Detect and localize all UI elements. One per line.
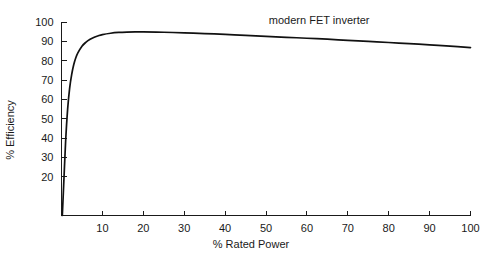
y-axis-title: % Efficiency — [4, 100, 16, 160]
y-tick-label: 50 — [41, 113, 53, 125]
x-tick-label: 100 — [461, 222, 479, 234]
x-tick-label: 80 — [383, 222, 395, 234]
series-line-modern-fet-inverter — [62, 32, 470, 216]
chart-series-lines — [62, 32, 470, 216]
y-tick-label: 90 — [41, 35, 53, 47]
y-tick-label: 40 — [41, 132, 53, 144]
x-axis-tick-labels: 102030405060708090100 — [96, 222, 479, 234]
x-tick-label: 20 — [137, 222, 149, 234]
x-tick-label: 50 — [260, 222, 272, 234]
y-tick-label: 20 — [41, 171, 53, 183]
x-tick-label: 70 — [342, 222, 354, 234]
x-tick-label: 30 — [178, 222, 190, 234]
chart-axes — [62, 22, 471, 216]
x-tick-label: 40 — [219, 222, 231, 234]
x-tick-label: 10 — [96, 222, 108, 234]
chart-tick-marks — [62, 22, 471, 216]
chart-annotations: modern FET inverter — [269, 14, 370, 26]
x-axis-title: % Rated Power — [213, 238, 290, 250]
chart-canvas: 102030405060708090100 203040506070809010… — [0, 0, 503, 257]
y-tick-label: 80 — [41, 55, 53, 67]
efficiency-chart: 102030405060708090100 203040506070809010… — [0, 0, 503, 257]
y-tick-label: 70 — [41, 74, 53, 86]
y-tick-label: 100 — [35, 16, 53, 28]
x-tick-label: 90 — [423, 222, 435, 234]
y-tick-label: 60 — [41, 93, 53, 105]
x-tick-label: 60 — [301, 222, 313, 234]
y-axis-tick-labels: 2030405060708090100 — [35, 16, 53, 183]
series-annotation-label: modern FET inverter — [269, 14, 370, 26]
y-tick-label: 30 — [41, 151, 53, 163]
